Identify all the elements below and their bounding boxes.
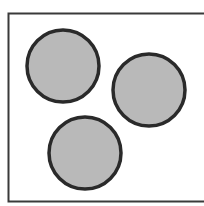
diagram-canvas	[0, 0, 204, 206]
circle-top-left	[27, 30, 99, 102]
circle-bottom	[49, 117, 121, 189]
circle-right	[113, 54, 185, 126]
